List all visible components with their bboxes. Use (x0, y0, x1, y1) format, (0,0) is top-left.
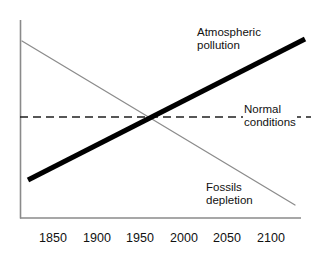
annotation-atmospheric-line2: pollution (197, 39, 261, 52)
x-tick-label-1850: 1850 (39, 231, 67, 245)
chart-plot-area (0, 0, 317, 258)
annotation-fossils-depletion: Fossils depletion (205, 181, 254, 207)
x-tick-label-2050: 2050 (213, 231, 241, 245)
x-tick-label-2000: 2000 (170, 231, 198, 245)
annotation-fossils-line2: depletion (206, 194, 253, 207)
x-tick-label-1900: 1900 (83, 231, 111, 245)
annotation-fossils-line1: Fossils (206, 181, 253, 194)
annotation-normal-line2: conditions (244, 116, 296, 129)
annotation-normal-line1: Normal (244, 103, 296, 116)
annotation-atmospheric-line1: Atmospheric (197, 26, 261, 39)
x-tick-label-1950: 1950 (126, 231, 154, 245)
chart-figure: Atmospheric pollution Normal conditions … (0, 0, 317, 258)
annotation-normal-conditions: Normal conditions (243, 103, 297, 129)
x-tick-label-2100: 2100 (257, 231, 285, 245)
annotation-atmospheric-pollution: Atmospheric pollution (197, 26, 261, 52)
